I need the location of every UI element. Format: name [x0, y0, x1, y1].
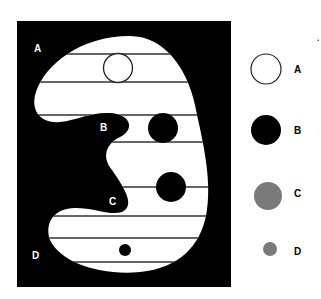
shape-circle-a: [104, 54, 133, 83]
legend-circle-c: [254, 182, 282, 210]
region-label-a: A: [34, 43, 41, 54]
region-label-c: C: [109, 196, 116, 207]
legend-label-c: C: [294, 188, 301, 199]
legend-label-a: A: [294, 64, 301, 75]
diagram-canvas: A B C D A B C D •: [0, 0, 321, 299]
legend: A B C D: [251, 54, 301, 257]
region-label-b: B: [100, 122, 107, 133]
region-label-d: D: [32, 250, 39, 261]
shape-circle-b: [148, 113, 178, 143]
stray-mark: •: [317, 37, 319, 43]
shape-circle-c: [156, 172, 186, 202]
legend-label-d: D: [294, 246, 301, 257]
legend-circle-a: [251, 54, 281, 84]
legend-circle-b: [251, 115, 281, 145]
legend-circle-d: [263, 242, 277, 256]
legend-label-b: B: [294, 125, 301, 136]
shape-circle-d: [119, 244, 131, 256]
